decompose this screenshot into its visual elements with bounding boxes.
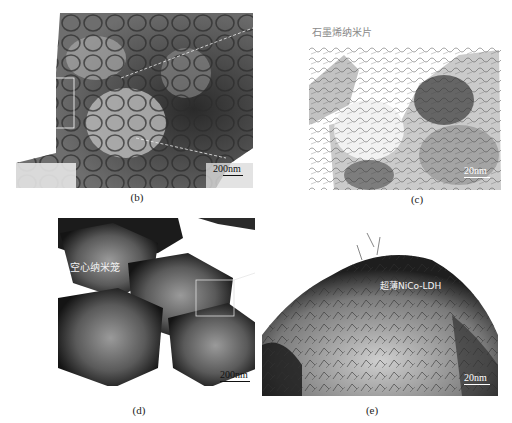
scale-bar-c: 20nm — [464, 165, 494, 178]
annotation-graphene-nanosheets: 石墨烯纳米片 — [312, 24, 372, 39]
scale-bar-b-line — [223, 175, 243, 176]
panel-e-image — [262, 225, 498, 396]
caption-e: (e) — [357, 404, 387, 416]
panel-b-image — [16, 13, 253, 188]
scale-bar-e-label: 20nm — [464, 372, 487, 383]
scale-bar-c-line — [464, 177, 490, 178]
annotation-hollow-nanocage: 空心纳米笼 — [70, 259, 120, 274]
panel-d-image — [58, 218, 255, 386]
scale-bar-e: 20nm — [464, 372, 494, 385]
annotation-ultrathin-nico-ldh: 超薄NiCo-LDH — [380, 279, 441, 292]
scale-bar-d-line — [220, 381, 250, 382]
caption-b: (b) — [122, 191, 152, 203]
scale-bar-c-label: 20nm — [464, 165, 487, 176]
scale-bar-e-line — [464, 384, 490, 385]
caption-d: (d) — [124, 404, 154, 416]
scale-bar-b: 200nm — [213, 163, 251, 176]
caption-c: (c) — [402, 193, 432, 205]
scale-bar-d: 200nm — [220, 369, 260, 382]
scale-bar-b-label: 200nm — [213, 163, 241, 174]
scale-bar-d-label: 200nm — [220, 369, 248, 380]
